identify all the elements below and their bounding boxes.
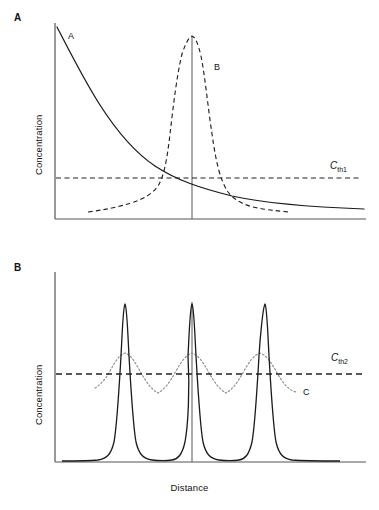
panel-b-curve-c [95,353,296,393]
panel-b-letter: B [14,262,21,273]
panel-a-y-axis-label: Concentration [33,115,44,175]
panel-b-y-axis-label: Concentration [33,365,44,425]
curve-label-a: A [68,31,74,41]
panel-a: A Concentration A B Cth1 [0,0,379,250]
curve-label-c: C [303,387,310,397]
threshold-label-cth1-sub: th1 [337,166,347,173]
panel-a-curve-b [88,36,289,212]
panel-b-x-axis-label: Distance [0,482,379,493]
panel-b: B Concentration C Cth2 Distance [0,250,379,510]
panel-a-letter: A [14,12,21,23]
threshold-label-cth1: Cth1 [330,160,347,173]
curve-label-b: B [214,62,220,72]
panel-a-curve-a [57,27,364,209]
panel-a-plot [0,0,379,250]
panel-b-plot [0,250,379,475]
threshold-label-cth2-sub: th2 [338,358,348,365]
threshold-label-cth2: Cth2 [331,352,348,365]
figure-container: A Concentration A B Cth1 B Concentration… [0,0,379,510]
panel-b-peaks-curve [62,304,340,461]
